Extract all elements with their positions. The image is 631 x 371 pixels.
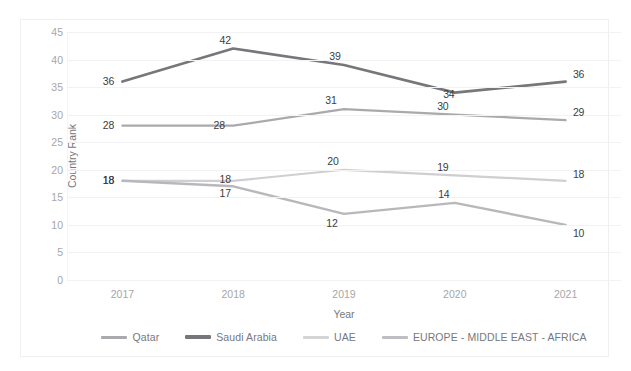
legend-swatch-icon: [303, 336, 329, 339]
plot-area: 2828313029364239343618182019181817121410: [67, 32, 621, 280]
data-point-label: 36: [573, 68, 584, 80]
legend-swatch-icon: [185, 335, 211, 339]
legend-item[interactable]: UAE: [303, 331, 356, 343]
gridline: [67, 197, 621, 198]
data-point-label: 31: [325, 94, 336, 106]
legend-item[interactable]: Saudi Arabia: [185, 331, 277, 343]
legend-swatch-icon: [382, 336, 408, 339]
x-axis-label: Year: [67, 308, 621, 320]
data-point-label: 28: [214, 119, 225, 131]
data-point-label: 18: [103, 174, 114, 186]
data-point-label: 14: [438, 188, 449, 200]
legend-label: Saudi Arabia: [216, 331, 277, 343]
x-tick-label: 2017: [111, 288, 134, 300]
legend-label: Qatar: [132, 331, 159, 343]
chart-figure: Country Rank 454035302520151050 28283130…: [0, 0, 631, 371]
legend-item[interactable]: Qatar: [101, 331, 159, 343]
chart-legend: QatarSaudi ArabiaUAEEUROPE - MIDDLE EAST…: [67, 331, 621, 343]
x-tick-label: 2021: [554, 288, 577, 300]
gridline: [67, 87, 621, 88]
data-point-label: 29: [573, 106, 584, 118]
series-line: [122, 109, 565, 126]
data-point-label: 36: [103, 75, 114, 87]
data-point-label: 39: [329, 50, 340, 62]
data-point-label: 34: [443, 88, 454, 100]
gridline: [67, 32, 621, 33]
data-point-label: 42: [220, 34, 231, 46]
y-tick-label: 45: [37, 26, 63, 38]
series-line: [122, 170, 565, 181]
gridline: [67, 170, 621, 171]
y-tick-label: 30: [37, 109, 63, 121]
legend-swatch-icon: [101, 336, 127, 339]
series-line: [122, 49, 565, 93]
data-point-label: 20: [327, 155, 338, 167]
data-point-label: 17: [220, 187, 231, 199]
chart-plot-frame: Country Rank 454035302520151050 28283130…: [20, 19, 609, 357]
y-tick-label: 5: [37, 246, 63, 258]
x-tick-label: 2019: [332, 288, 355, 300]
x-tick-label: 2018: [222, 288, 245, 300]
clipped-caption-text: [0, 0, 631, 9]
y-tick-label: 15: [37, 191, 63, 203]
data-point-label: 18: [220, 173, 231, 185]
gridline: [67, 115, 621, 116]
data-point-label: 19: [437, 161, 448, 173]
data-point-label: 18: [573, 168, 584, 180]
data-point-label: 30: [437, 100, 448, 112]
gridline: [67, 225, 621, 226]
y-tick-label: 20: [37, 164, 63, 176]
y-axis-ticks: 454035302520151050: [29, 32, 63, 280]
series-lines: [67, 32, 621, 280]
series-line: [122, 181, 565, 225]
gridline: [67, 60, 621, 61]
data-point-label: 10: [573, 227, 584, 239]
gridline: [67, 280, 621, 281]
data-point-label: 28: [103, 119, 114, 131]
y-tick-label: 25: [37, 136, 63, 148]
legend-label: UAE: [334, 331, 356, 343]
gridline: [67, 252, 621, 253]
y-tick-label: 35: [37, 81, 63, 93]
legend-item[interactable]: EUROPE - MIDDLE EAST - AFRICA: [382, 331, 587, 343]
y-tick-label: 0: [37, 274, 63, 286]
gridline: [67, 142, 621, 143]
data-point-label: 12: [326, 217, 337, 229]
y-tick-label: 10: [37, 219, 63, 231]
x-tick-label: 2020: [443, 288, 466, 300]
legend-label: EUROPE - MIDDLE EAST - AFRICA: [413, 331, 587, 343]
y-tick-label: 40: [37, 54, 63, 66]
